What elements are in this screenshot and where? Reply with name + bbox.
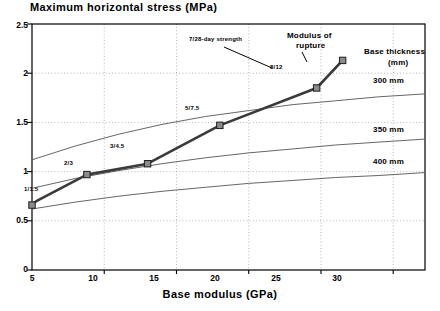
chart-canvas: Maximum horizontal stress (MPa) Base mod… <box>0 0 440 311</box>
plot-svg <box>0 0 440 311</box>
